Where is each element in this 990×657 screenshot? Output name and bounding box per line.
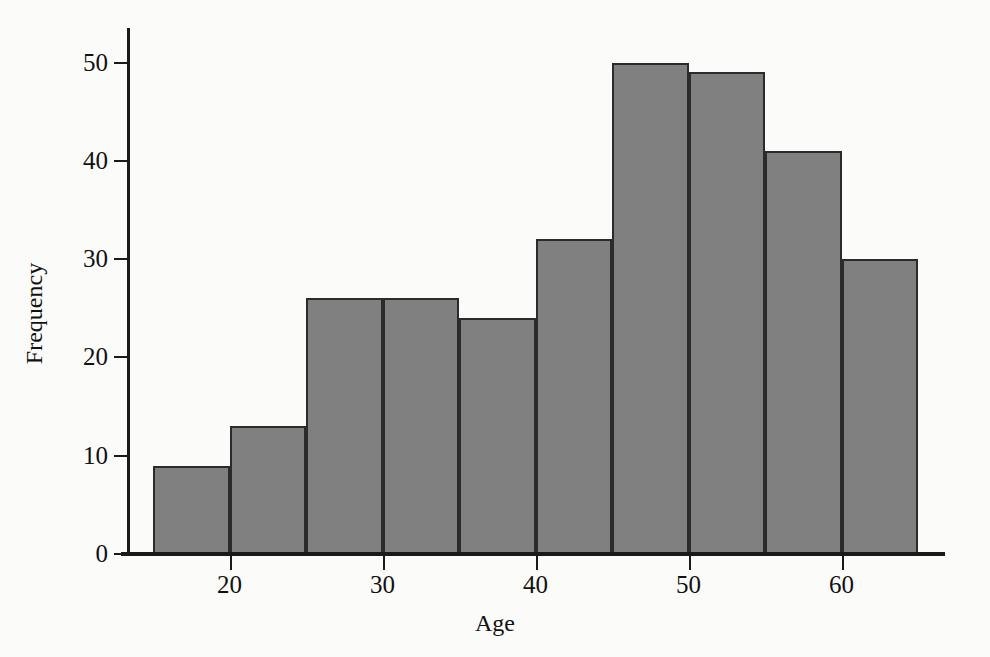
y-axis-tick-label: 50 — [8, 50, 108, 75]
y-axis-tick — [114, 160, 128, 162]
histogram-figure: 01020304050 2030405060 Frequency Age — [0, 0, 990, 657]
y-axis-tick — [114, 356, 128, 358]
histogram-bar — [459, 318, 536, 554]
x-axis-tick-label: 20 — [190, 572, 270, 597]
histogram-bar — [765, 151, 842, 554]
x-axis-tick-label: 40 — [496, 572, 576, 597]
y-axis-tick-label: 40 — [8, 148, 108, 173]
histogram-bar — [306, 298, 383, 554]
x-axis-tick — [689, 556, 691, 570]
histogram-bar — [383, 298, 460, 554]
y-axis-title: Frequency — [21, 204, 48, 424]
histogram-bar — [153, 466, 230, 554]
x-axis-tick — [842, 556, 844, 570]
histogram-bar — [536, 239, 613, 554]
x-axis-tick-label: 50 — [649, 572, 729, 597]
y-axis-tick — [114, 258, 128, 260]
y-axis-tick — [114, 455, 128, 457]
x-axis-tick — [383, 556, 385, 570]
y-axis-tick — [114, 62, 128, 64]
x-axis-tick — [536, 556, 538, 570]
histogram-bar — [842, 259, 919, 554]
y-axis-tick-label: 0 — [8, 541, 108, 566]
y-axis-tick-label: 10 — [8, 443, 108, 468]
x-axis-title: Age — [0, 610, 990, 637]
y-axis-tick — [114, 553, 128, 555]
plot-area: 01020304050 2030405060 Frequency Age — [0, 0, 990, 657]
x-axis-line — [121, 552, 945, 556]
x-axis-tick-label: 30 — [343, 572, 423, 597]
histogram-bar — [230, 426, 307, 554]
x-axis-tick-label: 60 — [802, 572, 882, 597]
y-axis-line — [127, 28, 130, 555]
histogram-bar — [612, 63, 689, 555]
x-axis-tick — [230, 556, 232, 570]
histogram-bar — [689, 72, 766, 554]
